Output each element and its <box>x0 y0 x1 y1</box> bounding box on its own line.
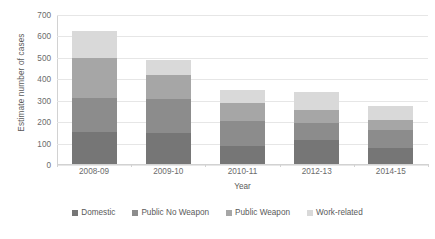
bar-segment[interactable] <box>368 130 413 148</box>
bar-group[interactable] <box>146 60 191 165</box>
legend-item[interactable]: Work-related <box>307 208 363 217</box>
legend-swatch-icon <box>132 210 138 216</box>
x-tick-mark <box>131 164 132 167</box>
legend-item[interactable]: Public No Weapon <box>132 208 209 217</box>
bar-segment[interactable] <box>146 99 191 133</box>
y-tick-label: 600 <box>26 32 51 41</box>
bar-segment[interactable] <box>294 110 339 123</box>
y-tick-label: 500 <box>26 53 51 62</box>
bars-layer <box>57 15 428 165</box>
bar-segment[interactable] <box>294 123 339 140</box>
x-tick-label: 2012-13 <box>280 167 354 176</box>
bar-segment[interactable] <box>146 133 191 165</box>
bar-segment[interactable] <box>72 31 117 58</box>
legend-item[interactable]: Domestic <box>72 208 115 217</box>
x-tick-mark <box>57 164 58 167</box>
y-tick-label: 0 <box>26 161 51 170</box>
x-tick-mark <box>280 164 281 167</box>
bar-segment[interactable] <box>220 90 265 103</box>
chart-legend: DomesticPublic No WeaponPublic WeaponWor… <box>0 208 435 217</box>
bar-segment[interactable] <box>72 58 117 98</box>
bar-segment[interactable] <box>368 148 413 165</box>
y-tick-label: 200 <box>26 118 51 127</box>
legend-label: Work-related <box>316 208 363 217</box>
legend-swatch-icon <box>72 210 78 216</box>
x-tick-label: 2009-10 <box>131 167 205 176</box>
bar-group[interactable] <box>368 106 413 165</box>
plot-area <box>57 15 428 165</box>
bar-segment[interactable] <box>220 146 265 165</box>
bar-segment[interactable] <box>72 98 117 132</box>
legend-label: Public No Weapon <box>141 208 209 217</box>
bar-segment[interactable] <box>368 106 413 120</box>
legend-label: Domestic <box>81 208 115 217</box>
legend-swatch-icon <box>307 210 313 216</box>
x-axis-title: Year <box>57 182 428 191</box>
y-tick-label: 100 <box>26 139 51 148</box>
y-tick-label: 700 <box>26 11 51 20</box>
x-tick-mark <box>205 164 206 167</box>
bar-segment[interactable] <box>146 75 191 99</box>
bar-segment[interactable] <box>368 120 413 130</box>
legend-label: Public Weapon <box>235 208 290 217</box>
legend-swatch-icon <box>226 210 232 216</box>
bar-segment[interactable] <box>220 103 265 121</box>
x-axis-tick-labels: 2008-092009-102010-112012-132014-15 <box>57 167 428 181</box>
x-tick-mark <box>428 164 429 167</box>
legend-item[interactable]: Public Weapon <box>226 208 290 217</box>
bar-segment[interactable] <box>72 132 117 165</box>
x-tick-label: 2014-15 <box>354 167 428 176</box>
bar-segment[interactable] <box>294 140 339 165</box>
stacked-bar-chart: Estimate number of cases 010020030040050… <box>0 0 435 239</box>
bar-segment[interactable] <box>146 60 191 75</box>
bar-group[interactable] <box>294 92 339 165</box>
y-tick-label: 400 <box>26 75 51 84</box>
x-tick-mark <box>354 164 355 167</box>
bar-segment[interactable] <box>294 92 339 110</box>
bar-group[interactable] <box>220 90 265 165</box>
bar-segment[interactable] <box>220 121 265 146</box>
gridline <box>57 165 428 166</box>
y-tick-label: 300 <box>26 96 51 105</box>
y-axis-tick-labels: 0100200300400500600700 <box>26 0 51 239</box>
x-axis-line <box>57 164 428 165</box>
bar-group[interactable] <box>72 31 117 165</box>
x-tick-label: 2010-11 <box>205 167 279 176</box>
x-tick-label: 2008-09 <box>57 167 131 176</box>
